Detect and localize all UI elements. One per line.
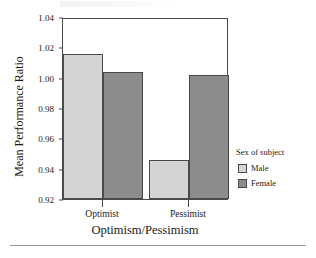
y-tick-label: 0.94	[38, 165, 54, 174]
plot-area	[62, 18, 228, 200]
caption-divider	[10, 245, 306, 246]
legend-swatch-female	[238, 179, 247, 188]
bar-pessimist-female	[189, 75, 229, 200]
y-tick-label: 0.92	[38, 196, 54, 205]
legend: Sex of subject Male Female	[238, 147, 316, 193]
y-tick-label: 1.04	[38, 14, 54, 23]
legend-item-male: Male	[238, 163, 316, 173]
x-tick-mark	[102, 200, 103, 207]
x-tick-label: Optimist	[85, 209, 118, 219]
y-tick-label: 0.96	[38, 135, 54, 144]
legend-item-female: Female	[238, 178, 316, 188]
x-axis-title: Optimism/Pessimism	[62, 223, 228, 238]
legend-title: Sex of subject	[236, 147, 316, 157]
page-artifact	[60, 1, 170, 7]
y-tick-label: 0.98	[38, 105, 54, 114]
y-axis-title: Mean Performance Ratio	[12, 32, 27, 202]
bar-optimist-female	[103, 72, 143, 200]
figure-container: 1.04 1.02 1.00 0.98 0.96 0.94 0.92 Mean …	[0, 0, 316, 258]
y-axis: 1.04 1.02 1.00 0.98 0.96 0.94 0.92	[0, 0, 62, 218]
legend-label-male: Male	[251, 163, 268, 173]
bar-optimist-male	[63, 54, 103, 200]
y-tick-label: 1.02	[38, 44, 54, 53]
legend-label-female: Female	[251, 178, 276, 188]
y-tick-label: 1.00	[38, 74, 54, 83]
legend-swatch-male	[238, 164, 247, 173]
x-tick-label: Pessimist	[170, 209, 206, 219]
x-tick-mark	[188, 200, 189, 207]
bar-pessimist-male	[149, 160, 189, 199]
